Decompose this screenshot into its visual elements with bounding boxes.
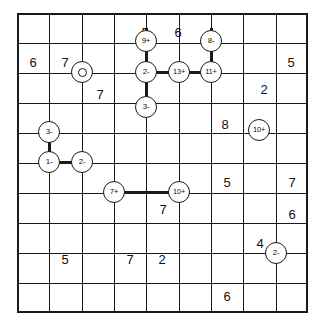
cell-number: 5 (275, 56, 307, 69)
cell-number: 6 (276, 208, 308, 221)
grid-line-h-9 (17, 283, 308, 284)
grid-line-v-3 (114, 13, 115, 313)
node-9plus[interactable]: 9+ (135, 30, 157, 52)
grid-line-v-5 (179, 13, 180, 313)
cell-number: 7 (147, 203, 179, 216)
cell-number: 8 (209, 118, 241, 131)
grid-line-h-7 (17, 223, 308, 224)
node-13plus[interactable]: 13+ (168, 61, 190, 83)
node-3minus-top[interactable]: 3- (135, 96, 157, 118)
grid-line-h-3 (17, 103, 308, 104)
node-2minus-bottom[interactable]: 2- (265, 242, 287, 264)
cell-number: 7 (84, 88, 116, 101)
node-open-circle[interactable] (71, 61, 93, 83)
node-3minus-left[interactable]: 3- (38, 121, 60, 143)
puzzle-grid-canvas: 5 6 6 7 5 7 2 8 5 7 7 6 4 5 7 2 6 9+ 8- … (0, 0, 325, 328)
grid-line-h-0 (17, 13, 308, 15)
cell-number: 2 (248, 83, 280, 96)
node-11plus[interactable]: 11+ (200, 61, 222, 83)
cell-number: 2 (146, 253, 178, 266)
node-7plus[interactable]: 7+ (103, 181, 125, 203)
cell-number: 7 (114, 253, 146, 266)
grid-line-h-10 (17, 311, 308, 313)
node-8minus[interactable]: 8- (200, 30, 222, 52)
cell-number: 6 (162, 26, 194, 39)
cell-number: 5 (49, 253, 81, 266)
node-10plus-mid[interactable]: 10+ (168, 181, 190, 203)
node-2minus-top[interactable]: 2- (135, 61, 157, 83)
node-1minus[interactable]: 1- (38, 151, 60, 173)
grid-area: 5 6 6 7 5 7 2 8 5 7 7 6 4 5 7 2 6 9+ 8- … (17, 13, 308, 313)
cell-number: 6 (17, 56, 49, 69)
node-2minus-left[interactable]: 2- (71, 151, 93, 173)
cell-number: 5 (211, 176, 243, 189)
cell-number: 6 (211, 290, 243, 303)
node-10plus-right[interactable]: 10+ (248, 119, 270, 141)
grid-line-v-7 (243, 13, 244, 313)
cell-number: 7 (276, 176, 308, 189)
grid-line-h-1 (17, 43, 308, 44)
